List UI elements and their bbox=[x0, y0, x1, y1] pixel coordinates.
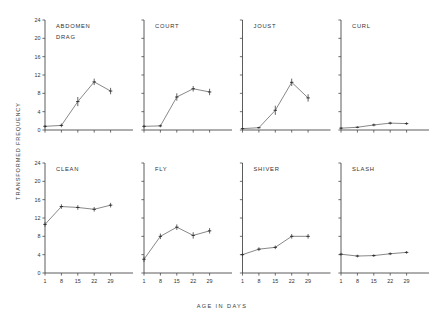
panel-title: COURT bbox=[155, 23, 179, 29]
y-tick-label: 8 bbox=[38, 90, 41, 96]
y-axis-label-container: TRANSFORMED FREQUENCY bbox=[0, 0, 20, 324]
panel-title: CURL bbox=[352, 23, 371, 29]
x-tick-label: 15 bbox=[75, 278, 81, 284]
x-tick-label: 1 bbox=[44, 278, 47, 284]
panel-slash: 18152229SLASH bbox=[338, 163, 429, 284]
y-tick-label: 0 bbox=[38, 270, 41, 276]
axis-lines bbox=[243, 20, 331, 130]
y-axis-label: TRANSFORMED FREQUENCY bbox=[15, 71, 21, 231]
y-tick-label: 16 bbox=[35, 197, 41, 203]
y-tick-label: 12 bbox=[35, 215, 41, 221]
y-tick-label: 4 bbox=[38, 109, 41, 115]
x-tick-label: 29 bbox=[108, 278, 114, 284]
x-tick-label: 29 bbox=[404, 278, 410, 284]
panel-shiver: 18152229SHIVER bbox=[240, 163, 331, 284]
x-tick-label: 15 bbox=[174, 278, 180, 284]
y-tick-label: 24 bbox=[35, 17, 41, 23]
x-tick-label: 22 bbox=[387, 278, 393, 284]
axis-lines bbox=[341, 20, 429, 130]
x-tick-label: 15 bbox=[371, 278, 377, 284]
x-tick-label: 8 bbox=[60, 278, 63, 284]
x-tick-label: 29 bbox=[305, 278, 311, 284]
panel-title: SLASH bbox=[352, 166, 375, 172]
x-tick-label: 8 bbox=[159, 278, 162, 284]
y-tick-label: 20 bbox=[35, 35, 41, 41]
x-tick-label: 8 bbox=[356, 278, 359, 284]
y-tick-label: 8 bbox=[38, 233, 41, 239]
panel-clean: 0481216202418152229CLEAN bbox=[35, 160, 134, 284]
x-axis-label: AGE IN DAYS bbox=[0, 303, 444, 309]
x-tick-label: 1 bbox=[143, 278, 146, 284]
x-tick-label: 1 bbox=[340, 278, 343, 284]
axis-lines bbox=[144, 20, 232, 130]
y-tick-label: 4 bbox=[38, 252, 41, 258]
panel-title: SHIVER bbox=[254, 166, 280, 172]
panel-curl: CURL bbox=[338, 20, 429, 133]
panel-fly: 18152229FLY bbox=[141, 163, 232, 284]
axis-lines bbox=[243, 163, 331, 273]
panel-title: JOUST bbox=[254, 23, 277, 29]
data-line bbox=[243, 82, 309, 128]
panel-abdomen-drag: 04812162024ABDOMENDRAG bbox=[35, 17, 134, 133]
panel-title: CLEAN bbox=[56, 166, 79, 172]
x-tick-label: 22 bbox=[289, 278, 295, 284]
panel-title: ABDOMEN bbox=[56, 23, 91, 29]
panels-svg: 04812162024ABDOMENDRAGCOURTJOUSTCURL0481… bbox=[0, 0, 444, 324]
panel-title: FLY bbox=[155, 166, 167, 172]
multi-panel-figure: TRANSFORMED FREQUENCY 04812162024ABDOMEN… bbox=[0, 0, 444, 324]
axis-lines bbox=[45, 163, 133, 273]
panel-joust: JOUST bbox=[240, 20, 331, 133]
y-tick-label: 0 bbox=[38, 127, 41, 133]
panel-title: DRAG bbox=[56, 34, 76, 40]
x-tick-label: 22 bbox=[190, 278, 196, 284]
data-line bbox=[144, 227, 210, 259]
x-tick-label: 1 bbox=[241, 278, 244, 284]
x-tick-label: 29 bbox=[207, 278, 213, 284]
x-tick-label: 8 bbox=[257, 278, 260, 284]
y-tick-label: 16 bbox=[35, 54, 41, 60]
y-tick-label: 20 bbox=[35, 178, 41, 184]
y-tick-label: 12 bbox=[35, 72, 41, 78]
x-tick-label: 22 bbox=[91, 278, 97, 284]
x-tick-label: 15 bbox=[272, 278, 278, 284]
y-tick-label: 24 bbox=[35, 160, 41, 166]
axis-lines bbox=[341, 163, 429, 273]
axis-lines bbox=[144, 163, 232, 273]
panel-court: COURT bbox=[141, 20, 232, 133]
